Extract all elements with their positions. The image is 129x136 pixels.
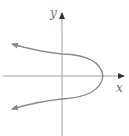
coordinate-plane — [0, 0, 129, 136]
parabola-lower-arm — [12, 76, 103, 109]
parabola-upper-arm — [12, 44, 103, 76]
x-axis-label: x — [116, 82, 123, 94]
y-axis-label: y — [50, 7, 57, 19]
